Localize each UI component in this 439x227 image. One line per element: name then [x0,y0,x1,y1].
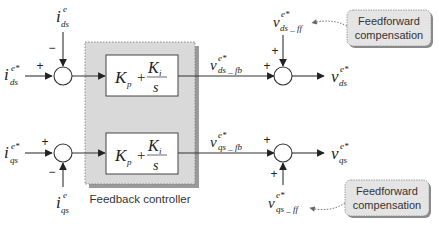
q-feedback-sub: qs [61,205,70,215]
feedforward-current-control-diagram: Feedback controller i e* ds + i e ds − K… [0,0,439,227]
d-ref-sub: ds [10,77,19,87]
q-vff-sign: + [270,167,277,181]
feedback-controller-label: Feedback controller [90,193,191,205]
q-kp: K [114,146,128,165]
q-output-summing-junction [274,144,292,162]
callout-top-line1: Feedforward [358,15,420,27]
d-kp-sub: p [126,79,132,89]
q-output-sup: e* [340,141,349,151]
feedforward-callout-bottom: Feedforward compensation [310,180,431,218]
q-vff-sup: e* [276,190,285,200]
d-output-label: v [331,67,339,86]
d-plus: + [137,69,145,85]
q-vfb-sub: qs _ fb [218,142,243,152]
q-pi-controller-block: K p + K i s [106,133,178,174]
q-output-sub: qs [339,155,348,165]
d-error-summing-junction [54,67,72,85]
callout-bottom-line2: compensation [353,199,422,211]
d-vfb-sign: + [263,59,270,73]
q-output-label: v [331,144,339,163]
callout-bottom-line1: Feedforward [356,185,418,197]
d-feedback-sub: ds [61,19,70,29]
d-s: s [153,80,159,95]
d-vfb-label: v [210,57,217,73]
q-feedback-sup: e [63,190,67,200]
d-vff-label: v [273,14,280,30]
d-kp: K [114,68,128,87]
d-output-summing-junction [274,67,292,85]
d-vfb-sup: e* [218,53,227,63]
q-vfb-sup: e* [218,130,227,140]
d-ref-sign: + [36,59,43,73]
q-error-summing-junction [54,144,72,162]
d-pi-controller-block: K p + K i s [106,55,178,96]
d-feedback-sign: − [48,41,55,55]
q-vfb-sign: + [263,133,270,147]
d-ref-label: i [4,65,9,84]
q-plus: + [137,147,145,163]
q-ref-sup: e* [11,141,20,151]
q-s: s [153,158,159,173]
d-vff-sign: + [271,44,278,58]
q-feedback-sign: − [48,165,55,179]
q-vfb-label: v [210,134,217,150]
d-vff-sup: e* [281,9,290,19]
q-vff-sub: qs _ ff [276,204,300,214]
d-feedback-sup: e [63,4,67,14]
q-kp-sub: p [126,157,132,167]
q-ref-sub: qs [10,155,19,165]
q-ref-sign: + [41,135,48,149]
q-ref-label: i [4,143,9,162]
d-output-sup: e* [340,64,349,74]
callout-top-line2: compensation [355,29,424,41]
d-ref-sup: e* [11,63,20,73]
d-output-sub: ds [339,78,348,88]
d-vff-sub: ds _ ff [280,23,304,33]
d-vfb-sub: ds _ fb [218,65,243,75]
q-vff-label: v [268,195,275,211]
feedforward-callout-top: Feedforward compensation [312,10,433,48]
